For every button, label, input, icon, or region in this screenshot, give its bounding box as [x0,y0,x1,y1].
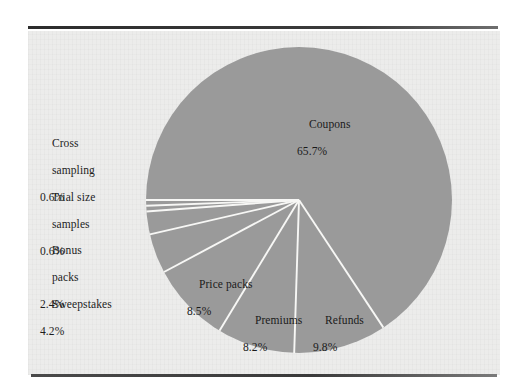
pie-label-refunds: Refunds 9.8% [313,301,364,381]
pie-label-cross-sampling-line2: sampling [52,164,95,176]
pie-label-coupons-value: 65.7% [297,145,351,158]
pie-label-premiums-line1: Premiums [255,314,302,326]
pie-chart-figure: Cross sampling 0.6% Trial size samples 0… [0,0,525,391]
pie-label-coupons: Coupons 65.7% [297,105,351,185]
pie-label-trial-size-samples-line2: samples [52,218,90,230]
pie-label-bonus-packs-line1: Bonus [52,244,82,256]
pie-label-coupons-line1: Coupons [309,118,351,130]
pie-label-trial-size-samples-line1: Trial size [52,191,96,203]
pie-label-refunds-line1: Refunds [325,314,364,326]
pie-label-cross-sampling-line1: Cross [52,137,79,149]
top-rule [28,26,498,29]
pie-label-premiums-value: 8.2% [243,341,302,354]
pie-label-sweepstakes-line1: Sweepstakes [52,298,112,310]
pie-label-refunds-value: 9.8% [313,341,364,354]
pie-label-bonus-packs-line2: packs [52,271,79,283]
pie-label-sweepstakes: Sweepstakes 4.2% [40,285,112,365]
pie-label-price-packs-line1: Price packs [199,278,253,290]
pie-label-premiums: Premiums 8.2% [243,301,302,381]
pie-label-sweepstakes-value: 4.2% [40,325,112,338]
